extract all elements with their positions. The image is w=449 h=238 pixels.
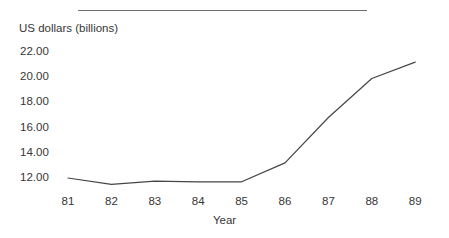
x-tick-label: 86 [265,195,305,208]
x-tick-label: 83 [135,195,175,208]
x-tick-label: 82 [91,195,131,208]
x-tick-label: 81 [48,195,88,208]
x-tick-label: 87 [308,195,348,208]
data-series-line [68,62,415,184]
x-axis-title: Year [0,214,449,226]
line-chart: US dollars (billions) 22.0020.0018.0016.… [0,0,449,238]
x-tick-label: 84 [178,195,218,208]
x-tick-label: 89 [395,195,435,208]
x-tick-label: 85 [222,195,262,208]
x-tick-label: 88 [352,195,392,208]
